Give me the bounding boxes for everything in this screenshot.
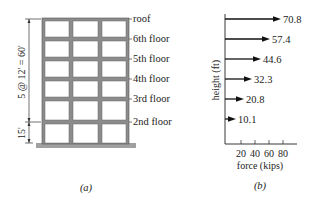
svg-text:80: 80	[278, 148, 288, 159]
dimension-upper-label: 5 @ 12' = 60'	[16, 45, 27, 99]
force-value-roof: 70.8	[283, 14, 301, 25]
floor-label-4th: 4th floor	[133, 73, 170, 84]
force-value-4th: 32.3	[254, 74, 272, 85]
floor-label-roof: roof	[133, 13, 151, 24]
dimension-lower-label: 15'	[16, 127, 27, 139]
x-ticks	[241, 140, 283, 144]
arrowheads	[228, 16, 281, 122]
svg-text:20: 20	[236, 148, 246, 159]
floor-label-2nd: 2nd floor	[133, 116, 172, 127]
force-chart: 20 40 60 80 force (kips) height (ft) 70.…	[210, 14, 301, 172]
figure: roof 6th floor 5th floor 4th floor 3rd f…	[0, 0, 310, 202]
force-value-5th: 44.6	[263, 54, 281, 65]
floor-label-5th: 5th floor	[133, 53, 170, 64]
force-value-2nd: 10.1	[238, 114, 256, 125]
svg-text:40: 40	[250, 148, 260, 159]
caption-b: (b)	[254, 180, 267, 192]
y-axis-label: height (ft)	[210, 60, 222, 100]
caption-a: (a)	[80, 182, 93, 194]
floor-label-6th: 6th floor	[133, 33, 170, 44]
dimension-line	[25, 19, 41, 143]
building-frame	[36, 18, 136, 148]
force-value-3rd: 20.8	[246, 94, 264, 105]
floor-label-3rd: 3rd floor	[133, 93, 171, 104]
floor-labels: roof 6th floor 5th floor 4th floor 3rd f…	[133, 13, 172, 127]
force-values: 70.8 57.4 44.6 32.3 20.8 10.1	[238, 14, 301, 125]
force-value-6th: 57.4	[272, 34, 291, 45]
x-axis-label: force (kips)	[237, 160, 283, 172]
x-tick-labels: 20 40 60 80	[236, 148, 288, 159]
svg-text:60: 60	[264, 148, 274, 159]
